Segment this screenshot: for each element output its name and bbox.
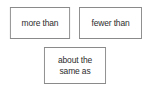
answer-option-about-the-same-as-label: about the same as [45,55,105,76]
answer-option-about-the-same-as[interactable]: about the same as [44,47,106,84]
answer-choice-canvas: more than fewer than about the same as [0,0,152,88]
answer-option-fewer-than[interactable]: fewer than [79,7,142,39]
answer-option-more-than-label: more than [11,18,69,29]
answer-option-fewer-than-label: fewer than [80,18,141,29]
answer-option-more-than[interactable]: more than [10,7,70,39]
